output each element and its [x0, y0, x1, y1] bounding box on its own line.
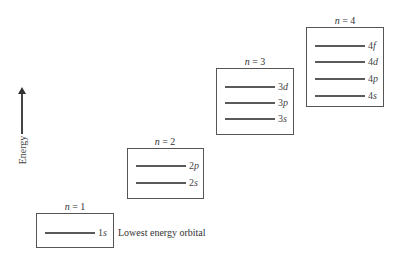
shell-n-variable: n	[245, 56, 250, 67]
orbital-line-4d	[315, 61, 365, 63]
orbital-line-3s	[225, 118, 275, 120]
shell-label-n1: n = 1	[45, 201, 105, 212]
shell-box-n2	[127, 148, 204, 199]
orbital-label-4p: 4p	[368, 74, 378, 84]
orbital-line-3p	[225, 102, 275, 104]
orbital-label-4d: 4d	[368, 57, 378, 67]
lowest-energy-annotation: Lowest energy orbital	[118, 228, 206, 238]
orbital-label-3d: 3d	[278, 82, 288, 92]
shell-n-variable: n	[335, 15, 340, 26]
shell-label-n4: n = 4	[315, 15, 375, 26]
orbital-label-2p: 2p	[189, 161, 199, 171]
orbital-line-2s	[136, 182, 186, 184]
orbital-label-4f: 4f	[368, 41, 376, 51]
shell-n-value: 2	[170, 136, 175, 147]
shell-n-value: 4	[350, 15, 355, 26]
orbital-line-1s	[45, 232, 95, 234]
shell-n-variable: n	[65, 201, 70, 212]
shell-label-n2: n = 2	[135, 136, 195, 147]
shell-label-n3: n = 3	[225, 56, 285, 67]
shell-n-value: 3	[260, 56, 265, 67]
orbital-label-3s: 3s	[278, 114, 287, 124]
orbital-line-4s	[315, 95, 365, 97]
orbital-line-2p	[136, 165, 186, 167]
orbital-label-3p: 3p	[278, 98, 288, 108]
energy-axis-label: Energy	[17, 136, 28, 165]
shell-n-value: 1	[80, 201, 85, 212]
orbital-label-1s: 1s	[98, 228, 107, 238]
orbital-label-2s: 2s	[189, 178, 198, 188]
energy-arrow-icon	[21, 92, 23, 134]
orbital-line-4f	[315, 45, 365, 47]
shell-n-variable: n	[155, 136, 160, 147]
orbital-line-3d	[225, 86, 275, 88]
orbital-line-4p	[315, 78, 365, 80]
orbital-label-4s: 4s	[368, 91, 377, 101]
